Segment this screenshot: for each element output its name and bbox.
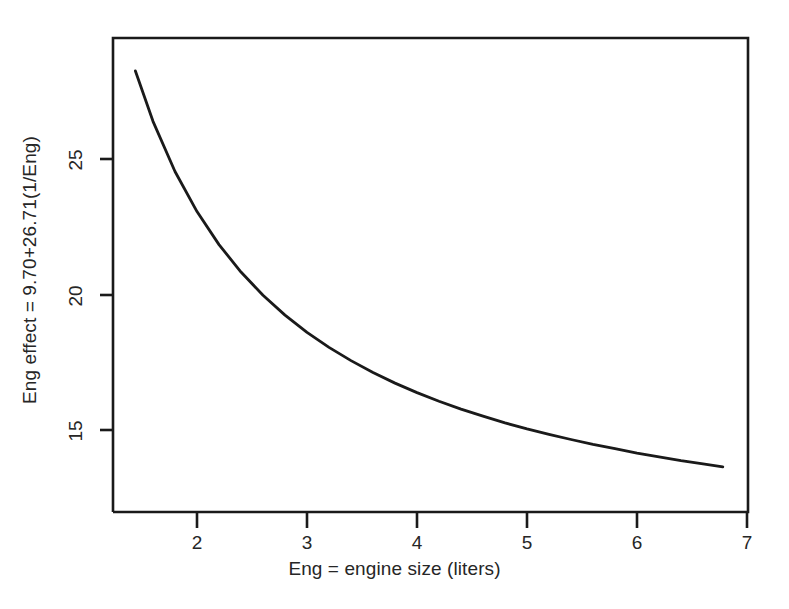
plot-canvas bbox=[0, 0, 789, 609]
y-tick-label-15: 15 bbox=[65, 411, 87, 451]
x-tick-label-7: 7 bbox=[732, 532, 762, 554]
x-tick-label-4: 4 bbox=[402, 532, 432, 554]
chart-figure: 25 20 15 2 3 4 5 6 7 Eng effect = 9.70+2… bbox=[0, 0, 789, 609]
y-axis-ticks bbox=[100, 159, 113, 430]
y-axis-title-container: Eng effect = 9.70+26.71(1/Eng) bbox=[0, 0, 60, 540]
x-tick-label-5: 5 bbox=[512, 532, 542, 554]
x-axis-title: Eng = engine size (liters) bbox=[0, 558, 789, 580]
data-curve-eng-effect bbox=[135, 71, 722, 467]
x-tick-label-3: 3 bbox=[292, 532, 322, 554]
chart-screenshot: 25 20 15 2 3 4 5 6 7 Eng effect = 9.70+2… bbox=[0, 0, 789, 609]
x-tick-label-2: 2 bbox=[182, 532, 212, 554]
y-tick-label-25: 25 bbox=[65, 140, 87, 180]
y-axis-title: Eng effect = 9.70+26.71(1/Eng) bbox=[19, 136, 41, 404]
y-tick-label-20: 20 bbox=[65, 276, 87, 316]
x-tick-label-6: 6 bbox=[622, 532, 652, 554]
x-axis-ticks bbox=[197, 512, 747, 528]
plot-frame bbox=[113, 38, 748, 512]
